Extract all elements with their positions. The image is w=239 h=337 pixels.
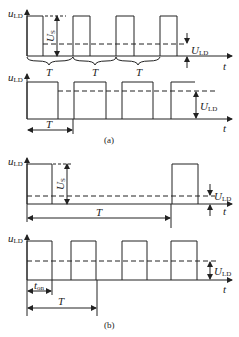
panel-a-top	[27, 10, 232, 68]
amplitude-label-b: US	[54, 178, 67, 190]
ylabel-b-top: uLD	[8, 155, 23, 168]
period-label-b-bottom: T	[58, 295, 65, 307]
xlabel-a-bottom: t	[223, 122, 227, 134]
period-label-2: T	[92, 66, 99, 78]
period-label-3: T	[136, 66, 143, 78]
caption-a: (a)	[104, 135, 114, 145]
amplitude-label-a: US	[44, 30, 57, 42]
avg-label-b-bottom: ULD	[214, 265, 231, 278]
xlabel-a-top: t	[223, 60, 227, 72]
ylabel-a-top: uLD	[8, 7, 23, 20]
waveform-diagram: uLD US ULD t T T T uLD ULD t T (a) uLD U…	[0, 0, 239, 337]
avg-label-a-bottom: ULD	[200, 100, 217, 113]
period-label-b-top: T	[96, 206, 103, 218]
ylabel-a-bottom: uLD	[8, 71, 23, 84]
panel-b-top	[27, 158, 232, 228]
xlabel-b-top: t	[223, 205, 227, 217]
avg-label-a-top: ULD	[191, 44, 208, 57]
period-label-a-bottom: T	[46, 118, 53, 130]
caption-b: (b)	[104, 320, 115, 330]
on-time-label: ton	[34, 279, 45, 292]
period-label-1: T	[46, 66, 53, 78]
ylabel-b-bottom: uLD	[8, 232, 23, 245]
avg-label-b-top: ULD	[214, 190, 231, 203]
xlabel-b-bottom: t	[223, 283, 227, 295]
